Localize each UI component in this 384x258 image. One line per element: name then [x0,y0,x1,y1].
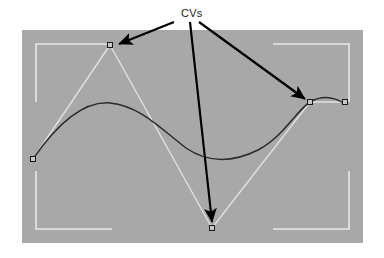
cv-left[interactable] [31,157,36,162]
figure-canvas [0,0,384,258]
cv-right-outer[interactable] [343,100,348,105]
viewport-panel [22,30,363,243]
cvs-annotation-label: CVs [181,8,202,19]
spline-cv-figure: CVs [0,0,384,258]
cv-bottom[interactable] [210,226,215,231]
cv-right-inner[interactable] [308,100,313,105]
cv-peak[interactable] [108,43,113,48]
